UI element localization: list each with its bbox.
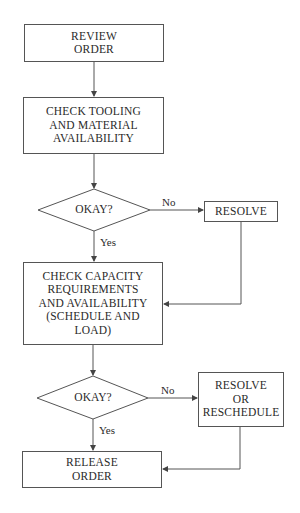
release-order-label: RELEASE ORDER	[66, 456, 118, 483]
review-order-node: REVIEW ORDER	[24, 24, 164, 62]
check-tooling-label: CHECK TOOLING AND MATERIAL AVAILABILITY	[46, 105, 141, 146]
release-order-node: RELEASE ORDER	[22, 451, 162, 488]
resolve-or-reschedule-label: RESOLVE OR RESCHEDULE	[203, 379, 280, 420]
resolve-node: RESOLVE	[204, 201, 278, 222]
decision2-label: OKAY?	[53, 391, 133, 403]
decision2-yes-label: Yes	[99, 424, 115, 436]
decision1-label: OKAY?	[54, 203, 134, 215]
review-order-label: REVIEW ORDER	[71, 30, 117, 57]
check-tooling-node: CHECK TOOLING AND MATERIAL AVAILABILITY	[23, 97, 164, 154]
check-capacity-node: CHECK CAPACITY REQUIREMENTS AND AVAILABI…	[23, 262, 163, 345]
decision1-no-label: No	[162, 196, 175, 208]
resolve-or-reschedule-node: RESOLVE OR RESCHEDULE	[198, 372, 284, 427]
connector-lines	[0, 0, 300, 513]
check-capacity-label: CHECK CAPACITY REQUIREMENTS AND AVAILABI…	[38, 270, 147, 338]
resolve-label: RESOLVE	[215, 205, 267, 219]
decision2-no-label: No	[161, 384, 174, 396]
decision1-yes-label: Yes	[100, 236, 116, 248]
